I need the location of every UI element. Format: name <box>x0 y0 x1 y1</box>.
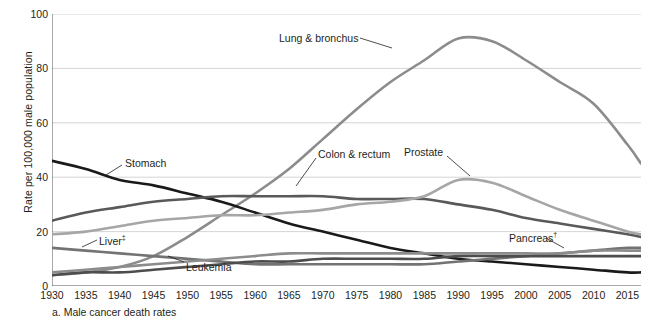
x-tick-label: 1955 <box>210 289 233 301</box>
y-axis-ticks: 020406080100 <box>0 0 48 321</box>
series-label-lung-bronchus: Lung & bronchus <box>279 33 358 44</box>
series-label-leukemia: Leukemia <box>186 262 232 273</box>
x-tick-label: 1990 <box>447 289 470 301</box>
x-tick-label: 1980 <box>379 289 402 301</box>
x-tick-label: 2010 <box>582 289 605 301</box>
y-tick-label: 100 <box>6 9 48 20</box>
x-tick-label: 1960 <box>243 289 266 301</box>
x-tick-label: 2000 <box>514 289 537 301</box>
series-label-liver: Liver‡ <box>99 234 126 246</box>
y-tick-label: 40 <box>6 172 48 183</box>
x-tick-label: 1995 <box>480 289 503 301</box>
y-tick-label: 80 <box>6 63 48 74</box>
x-tick-label: 1940 <box>108 289 131 301</box>
series-label-stomach: Stomach <box>125 158 166 169</box>
figure-caption: a. Male cancer death rates <box>52 306 176 318</box>
x-tick-label: 1975 <box>345 289 368 301</box>
y-tick-label: 60 <box>6 118 48 129</box>
x-tick-label: 1970 <box>311 289 334 301</box>
x-tick-label: 1965 <box>277 289 300 301</box>
footnote-marker-pancreas: † <box>553 231 557 238</box>
x-tick-label: 1950 <box>176 289 199 301</box>
x-tick-label: 2005 <box>548 289 571 301</box>
y-tick-label: 20 <box>6 227 48 238</box>
footnote-marker-liver: ‡ <box>122 234 126 241</box>
x-tick-label: 1945 <box>142 289 165 301</box>
series-label-colon-rectum: Colon & rectum <box>318 149 390 160</box>
chart-figure: Rate per 100,000 male population 0204060… <box>0 0 648 321</box>
series-label-pancreas: Pancreas† <box>509 231 557 243</box>
x-tick-label: 2015 <box>616 289 639 301</box>
x-tick-label: 1930 <box>40 289 63 301</box>
x-tick-label: 1935 <box>74 289 97 301</box>
x-tick-label: 1985 <box>413 289 436 301</box>
series-label-prostate: Prostate <box>404 147 443 158</box>
x-axis-ticks: 1930193519401945195019551960196519701975… <box>52 289 641 305</box>
series-line-prostate <box>52 179 641 234</box>
